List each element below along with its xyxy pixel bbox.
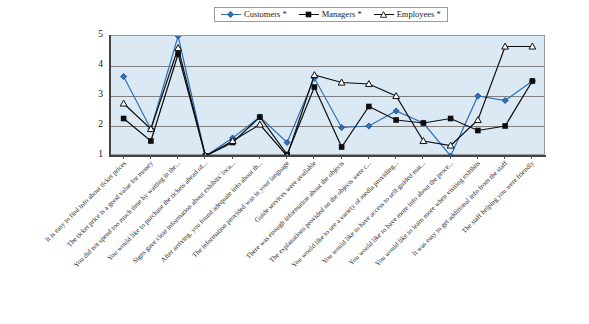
y-axis-tick-label: 5 bbox=[87, 30, 103, 40]
x-axis-tick bbox=[504, 156, 505, 159]
y-axis-tick-label: 1 bbox=[87, 150, 103, 160]
x-axis-tick bbox=[422, 156, 423, 159]
y-axis-tick-label: 3 bbox=[87, 90, 103, 100]
x-axis-tick bbox=[150, 156, 151, 159]
x-axis-tick bbox=[341, 156, 342, 159]
x-axis-tick bbox=[395, 156, 396, 159]
x-axis-tick bbox=[286, 156, 287, 159]
x-axis-tick bbox=[123, 156, 124, 159]
x-axis-tick bbox=[313, 156, 314, 159]
x-axis-tick bbox=[204, 156, 205, 159]
x-axis-tick bbox=[477, 156, 478, 159]
x-axis-tick bbox=[531, 156, 532, 159]
line-chart: Customers * Managers * Employees * bbox=[0, 0, 589, 324]
x-axis-tick bbox=[450, 156, 451, 159]
y-axis-tick-label: 2 bbox=[87, 120, 103, 130]
x-axis-tick bbox=[259, 156, 260, 159]
y-axis-tick-label: 4 bbox=[87, 60, 103, 70]
x-axis-tick bbox=[232, 156, 233, 159]
x-axis-tick bbox=[368, 156, 369, 159]
x-axis-tick bbox=[177, 156, 178, 159]
